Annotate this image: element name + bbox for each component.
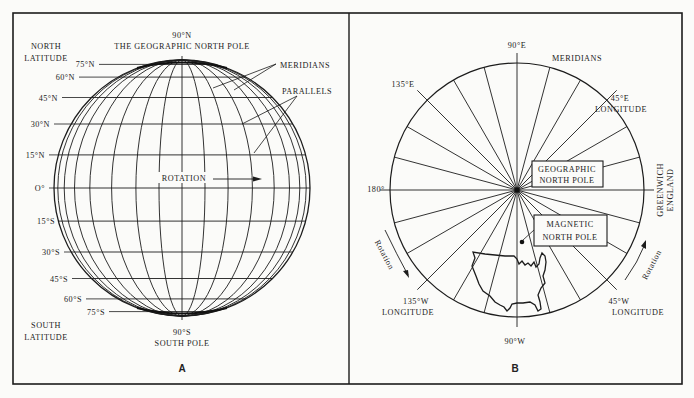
label-45w-longitude: LONGITUDE xyxy=(612,308,664,317)
panel-a: 90°N THE GEOGRAPHIC NORTH POLE NORTH LAT… xyxy=(24,31,332,374)
label-45w: 45°W xyxy=(608,297,629,306)
north-latitude-label-2: LATITUDE xyxy=(24,54,68,63)
geographic-north-pole-label-2: NORTH POLE xyxy=(539,176,594,185)
label-45e-longitude: LONGITUDE xyxy=(595,105,647,114)
rotation-arrowhead-icon xyxy=(253,177,262,182)
meridians-label-b: MERIDIANS xyxy=(552,54,602,63)
meridians-label: MERIDIANS xyxy=(280,61,330,70)
meridian-spoke xyxy=(454,80,518,190)
south-pole-degree: 90°S xyxy=(173,328,191,337)
latitude-label: 15°S xyxy=(37,217,55,226)
rotation-label-right: Rotation xyxy=(640,248,663,281)
panel-b: 90°E MERIDIANS 135°E 45°E LONGITUDE 180°… xyxy=(367,41,675,374)
parallels-arrow-1 xyxy=(242,96,297,124)
greenwich-label-2: ENGLAND xyxy=(666,168,675,211)
panel-b-label: B xyxy=(511,363,518,374)
geographic-pole-point xyxy=(515,188,520,193)
meridian-spoke xyxy=(394,157,517,190)
figure-frame xyxy=(13,13,682,384)
south-pole-label: SOUTH POLE xyxy=(155,339,210,348)
meridian-spoke xyxy=(417,90,517,190)
greenwich-label-1: GREENWICH xyxy=(656,163,665,217)
meridian-spoke xyxy=(484,67,517,190)
meridian-spoke xyxy=(417,190,517,290)
figure-canvas: 90°N THE GEOGRAPHIC NORTH POLE NORTH LAT… xyxy=(0,0,694,398)
parallels-arrow-2 xyxy=(254,96,297,153)
meridian-spoke xyxy=(517,190,550,313)
label-135e: 135°E xyxy=(391,80,414,89)
rotation-label-left-group: Rotation xyxy=(373,238,396,271)
latitude-label: 75°S xyxy=(87,308,105,317)
rotation-label-left: Rotation xyxy=(373,238,396,271)
meridian-spoke xyxy=(484,190,517,313)
geographic-north-pole-label: THE GEOGRAPHIC NORTH POLE xyxy=(114,42,250,51)
label-135w-longitude: LONGITUDE xyxy=(382,308,434,317)
rotation-label-right-group: Rotation xyxy=(640,248,663,281)
latitude-label: O° xyxy=(35,184,45,193)
globe xyxy=(54,56,310,320)
magnetic-north-pole-label-2: NORTH POLE xyxy=(542,233,597,242)
usa-outline xyxy=(472,252,546,311)
magnetic-north-pole-label-1: MAGNETIC xyxy=(546,220,593,229)
panel-a-label: A xyxy=(178,363,185,374)
label-90w: 90°W xyxy=(504,337,525,346)
north-pole-degree: 90°N xyxy=(172,31,191,40)
latitude-label: 45°S xyxy=(50,275,68,284)
south-latitude-label-2: LATITUDE xyxy=(24,333,68,342)
meridian-spoke xyxy=(454,190,518,300)
geographic-north-pole-label-1: GEOGRAPHIC xyxy=(538,165,596,174)
south-latitude-label-1: SOUTH xyxy=(31,321,61,330)
rotation-label: ROTATION xyxy=(162,174,206,183)
meridian-spoke xyxy=(407,127,517,191)
latitude-label: 60°S xyxy=(64,295,82,304)
latitude-label: 60°N xyxy=(56,73,75,82)
north-latitude-label-1: NORTH xyxy=(31,42,61,51)
greenwich-label: GREENWICH ENGLAND xyxy=(656,163,675,217)
meridian-spoke xyxy=(394,190,517,223)
latitude-label: 15°N xyxy=(26,151,45,160)
latitude-label: 45°N xyxy=(39,94,58,103)
label-180: 180° xyxy=(367,185,385,194)
label-45e: 45°E xyxy=(611,94,629,103)
latitude-label: 30°N xyxy=(31,120,50,129)
meridian-spoke xyxy=(407,190,517,254)
label-90e: 90°E xyxy=(508,41,526,50)
magnetic-north-pole-dot xyxy=(520,240,525,245)
label-135w: 135°W xyxy=(403,297,429,306)
rotation-arrowhead-left-icon xyxy=(403,270,409,278)
parallels-label: PARALLELS xyxy=(282,87,332,96)
latitude-label: 30°S xyxy=(42,248,60,257)
latitude-label: 75°N xyxy=(76,60,95,69)
